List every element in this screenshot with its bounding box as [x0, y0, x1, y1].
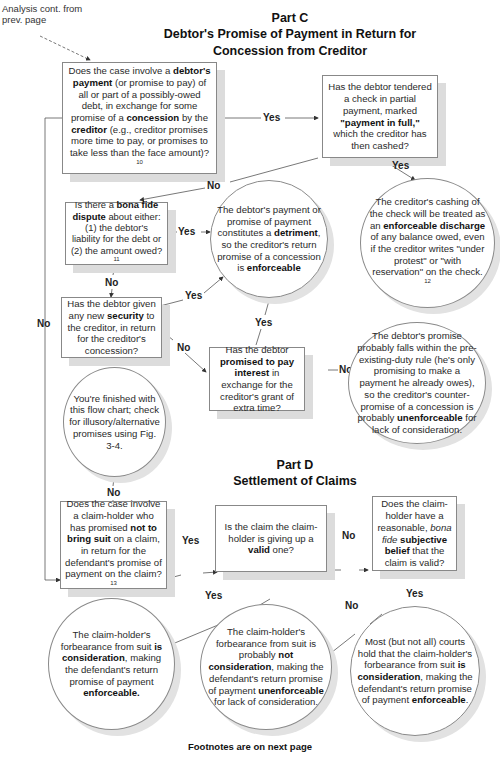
edge-label-yes: Yes	[406, 588, 423, 599]
outcome-text: The debtor's promise probably falls with…	[355, 330, 479, 435]
edge-label-no: No	[37, 318, 50, 329]
footnote-ref: 12	[424, 278, 431, 284]
bold-term: security	[107, 310, 144, 321]
outcome-text: The claim-holder's forbearance from suit…	[207, 626, 325, 708]
question-security-text: Has the debtor given any new security to…	[66, 298, 157, 357]
question-valid-text: Is the claim the claim-holder is giving …	[220, 521, 322, 556]
outcome-text: Most (but not all) courts hold that the …	[357, 636, 473, 706]
outcome-detriment-enforceable: The debtor's payment or promise of payme…	[210, 180, 328, 298]
bold-term: concession	[126, 112, 179, 123]
part-d-heading: Part D	[277, 458, 314, 472]
text-fragment: .	[466, 694, 469, 705]
part-c-title: Part C Debtor's Promise of Payment in Re…	[140, 10, 440, 59]
footnote-ref: 11	[113, 256, 119, 262]
question-new-security: Has the debtor given any new security to…	[61, 297, 162, 358]
outcome-enforceable-discharge: The creditor's cashing of the check will…	[360, 178, 495, 308]
bold-term: "payment in full,"	[340, 117, 419, 128]
question-not-to-sue-text: Does the case involve a claim-holder who…	[65, 498, 162, 592]
edge-label-no: No	[107, 487, 120, 498]
bold-term: unenforceable	[258, 685, 324, 696]
text-fragment: The claim-holder's forbearance from suit	[61, 629, 154, 652]
question-valid-claim: Is the claim the claim-holder is giving …	[215, 505, 327, 572]
bold-term: enforceable.	[83, 687, 140, 698]
outcome-finished: You're finished with this flow chart; ch…	[63, 367, 166, 477]
question-interest-text: Has the debtor promised to pay interest …	[214, 344, 300, 414]
part-d-subtitle: Settlement of Claims	[233, 474, 357, 488]
edge-label-yes: Yes	[263, 112, 280, 123]
outcome-not-consideration: The claim-holder's forbearance from suit…	[200, 604, 332, 730]
part-c-heading: Part C	[272, 11, 309, 25]
text-fragment: one?	[270, 544, 294, 555]
bold-term: unenforceable	[397, 412, 463, 423]
outcome-pre-existing-duty: The debtor's promise probably falls with…	[348, 322, 486, 444]
part-c-subtitle-line2: Concession from Creditor	[213, 44, 367, 58]
bold-term: detriment	[274, 227, 318, 238]
text-fragment: Has the debtor tendered a check in parti…	[328, 81, 431, 115]
bold-term: enforceable	[247, 262, 301, 273]
bold-term: enforceable discharge	[383, 220, 485, 231]
outcome-text: You're finished with this flow chart; ch…	[68, 393, 161, 452]
edge-label-no: No	[207, 180, 220, 191]
outcome-is-consideration: The claim-holder's forbearance from suit…	[48, 598, 175, 730]
text-fragment: Is the claim the claim-holder is giving …	[225, 521, 318, 544]
text-fragment: The claim-holder's forbearance from suit…	[216, 626, 316, 660]
text-fragment: The debtor's promise probably falls with…	[357, 330, 476, 423]
text-fragment: Most (but not all) courts hold that the …	[358, 636, 472, 670]
edge-label-no: No	[177, 342, 190, 353]
part-c-subtitle-line1: Debtor's Promise of Payment in Return fo…	[164, 27, 416, 41]
text-fragment: Has the debtor	[226, 344, 289, 355]
bold-term: promised to pay interest	[220, 356, 294, 379]
bold-term: valid	[248, 544, 270, 555]
edge-label-yes: Yes	[185, 290, 202, 301]
footnote-ref: 10	[136, 159, 143, 165]
edge-label-yes: Yes	[178, 226, 195, 237]
continuation-note: Analysis cont. from prev. page	[2, 4, 82, 26]
continuation-note-line2: prev. page	[2, 14, 46, 25]
text-fragment: Is there a	[75, 199, 117, 210]
question-promise-interest: Has the debtor promised to pay interest …	[209, 347, 305, 411]
edge-label-yes: Yes	[182, 535, 199, 546]
text-fragment: which the creditor has then cashed?	[333, 128, 426, 151]
text-fragment: of any balance owed, even if the credito…	[370, 231, 484, 277]
edge-label-no: No	[345, 600, 358, 611]
question-debtor-payment-text: Does the case involve a debtor's payment…	[67, 65, 212, 171]
footer-note: Footnotes are on next page	[0, 741, 500, 752]
edge-label-yes: Yes	[255, 317, 272, 328]
edge-label-no: No	[342, 530, 355, 541]
question-not-to-sue: Does the case involve a claim-holder who…	[60, 501, 167, 589]
bold-term: creditor	[71, 124, 107, 135]
bold-term: enforceable	[412, 694, 466, 705]
outcome-most-courts: Most (but not all) courts hold that the …	[350, 606, 480, 736]
outcome-text: The creditor's cashing of the check will…	[369, 196, 486, 290]
footnote-ref: 13	[110, 580, 117, 586]
edge-label-yes: Yes	[205, 590, 222, 601]
outcome-text: The claim-holder's forbearance from suit…	[55, 629, 168, 699]
continuation-note-line1: Analysis cont. from	[2, 3, 82, 14]
text-fragment: Does the case involve a	[69, 65, 174, 76]
question-subjective-belief: Does the claim-holder have a reasonable,…	[372, 496, 457, 571]
text-fragment: for lack of consideration.	[214, 696, 318, 707]
question-check-partial-payment: Has the debtor tendered a check in parti…	[322, 75, 438, 158]
question-subjective-text: Does the claim-holder have a reasonable,…	[377, 498, 452, 568]
question-debtor-payment: Does the case involve a debtor's payment…	[62, 62, 217, 174]
question-bona-fide-dispute: Is there a bona fide dispute about eithe…	[65, 202, 168, 265]
part-d-title: Part D Settlement of Claims	[195, 457, 395, 490]
question-bona-fide-text: Is there a bona fide dispute about eithe…	[70, 199, 163, 268]
question-check-text: Has the debtor tendered a check in parti…	[327, 81, 433, 151]
edge-label-no: No	[105, 277, 118, 288]
outcome-text: The debtor's payment or promise of payme…	[217, 204, 321, 274]
text-fragment: by the	[179, 112, 208, 123]
edge-label-yes: Yes	[392, 160, 409, 171]
